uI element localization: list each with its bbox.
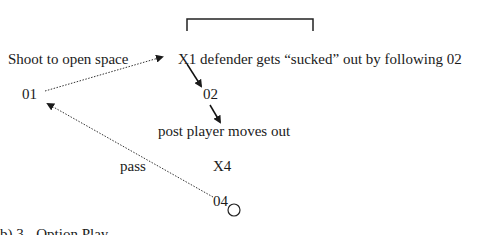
basket-bracket xyxy=(187,19,313,31)
diagram-caption: b) 3 - Option Play xyxy=(0,226,108,235)
player-04-label: 04 xyxy=(213,193,228,209)
post-move-arrow xyxy=(210,105,220,122)
x1-defender-note: X1 defender gets “sucked” out by followi… xyxy=(178,51,462,67)
post-player-note: post player moves out xyxy=(158,123,290,139)
circle-icon xyxy=(228,204,240,216)
defender-move-arrow xyxy=(187,64,201,86)
shoot-label: Shoot to open space xyxy=(8,51,128,67)
diagram-lines xyxy=(0,0,483,235)
defender-x4-label: X4 xyxy=(213,158,231,174)
pass-arrow xyxy=(48,104,213,197)
player-01-label: 01 xyxy=(22,86,37,102)
pass-label: pass xyxy=(120,158,146,174)
player-02-label: 02 xyxy=(203,86,218,102)
diagram-canvas: Shoot to open space X1 defender gets “su… xyxy=(0,0,483,235)
